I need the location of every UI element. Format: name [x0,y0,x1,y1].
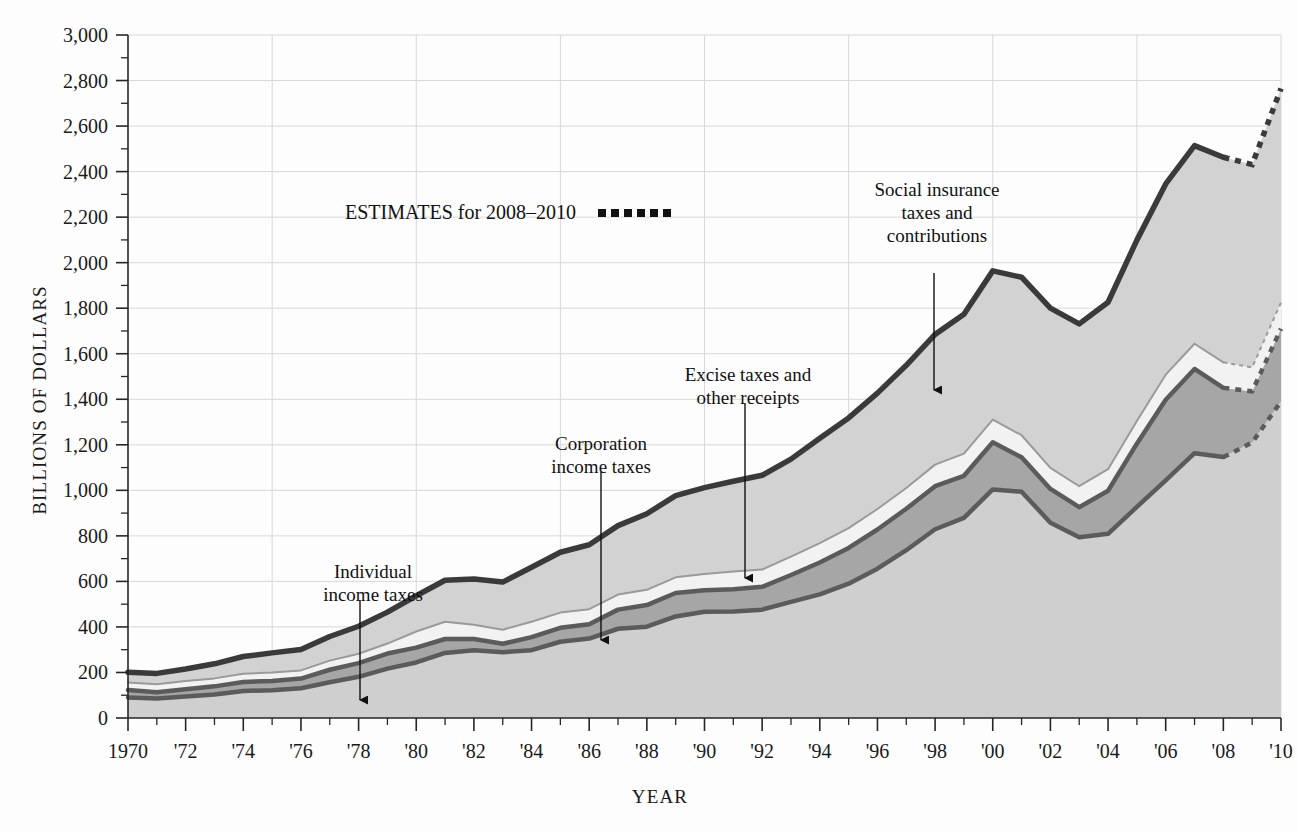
x-tick-label: '94 [808,740,832,762]
y-tick-label: 400 [78,616,108,638]
x-tick-label: '78 [347,740,371,762]
legend-dot [637,209,645,217]
x-tick-label: '98 [923,740,947,762]
x-tick-label: 1970 [108,740,148,762]
y-tick-label: 1,600 [63,343,108,365]
y-tick-label: 600 [78,570,108,592]
x-tick-label: '86 [577,740,601,762]
x-tick-label: '92 [750,740,774,762]
x-tick-label: '82 [462,740,486,762]
y-tick-label: 1,800 [63,297,108,319]
y-tick-label: 2,800 [63,70,108,92]
x-tick-label: '96 [866,740,890,762]
legend-dot [624,209,632,217]
chart-figure: 02004006008001,0001,2001,4001,6001,8002,… [0,0,1298,833]
y-tick-label: 3,000 [63,24,108,46]
x-tick-label: '02 [1039,740,1063,762]
y-tick-label: 200 [78,661,108,683]
x-tick-label: '10 [1269,740,1293,762]
x-tick-label: '90 [693,740,717,762]
legend-dot [650,209,658,217]
y-tick-label: 0 [98,707,108,729]
y-tick-label: 2,200 [63,206,108,228]
y-tick-label: 2,000 [63,252,108,274]
y-axis-title: BILLIONS OF DOLLARS [29,285,50,515]
x-tick-label: '74 [231,740,255,762]
y-tick-label: 2,400 [63,161,108,183]
receipts-by-source-area-chart: 02004006008001,0001,2001,4001,6001,8002,… [0,0,1298,833]
x-tick-label: '80 [404,740,428,762]
x-tick-label: '04 [1096,740,1120,762]
legend-dot [663,209,671,217]
estimates-legend-label: ESTIMATES for 2008–2010 [345,201,576,223]
x-axis-title: YEAR [632,786,688,807]
x-tick-label: '84 [520,740,544,762]
y-tick-label: 800 [78,525,108,547]
y-tick-label: 1,400 [63,388,108,410]
legend-dot [611,209,619,217]
x-tick-label: '76 [289,740,313,762]
legend-dot [598,209,606,217]
x-tick-label: '06 [1154,740,1178,762]
x-tick-label: '00 [981,740,1005,762]
x-tick-label: '08 [1212,740,1236,762]
x-tick-label: '88 [635,740,659,762]
y-tick-label: 1,000 [63,479,108,501]
x-tick-label: '72 [174,740,198,762]
y-tick-label: 2,600 [63,115,108,137]
y-tick-label: 1,200 [63,434,108,456]
